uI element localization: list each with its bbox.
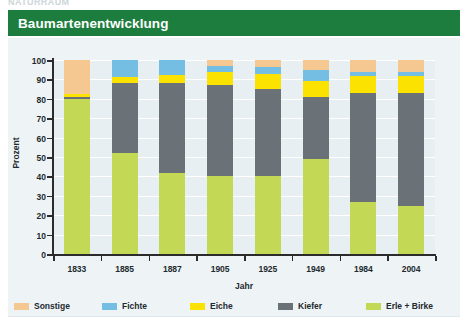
bar-segment-fichte[interactable]: [303, 70, 329, 82]
x-axis-tick: [340, 256, 342, 261]
stacked-bar[interactable]: [303, 60, 329, 254]
y-axis-tick-label: 10: [10, 231, 46, 241]
legend-swatch-icon: [102, 303, 117, 310]
legend-swatch-icon: [366, 303, 381, 310]
bar-segment-sonstige[interactable]: [255, 60, 281, 67]
x-axis-tick: [101, 256, 103, 261]
y-axis-tick: [47, 215, 52, 217]
x-axis-tick: [387, 256, 389, 261]
bar-segment-erle-birke[interactable]: [159, 173, 185, 254]
bar-segment-eiche[interactable]: [255, 74, 281, 90]
bar-segment-kiefer[interactable]: [255, 89, 281, 176]
bar-segment-fichte[interactable]: [112, 60, 138, 77]
page-title: Baumartenentwicklung: [8, 16, 169, 31]
x-axis-tick-label: 1887: [163, 264, 182, 274]
y-axis-tick: [47, 157, 52, 159]
y-axis-tick: [47, 118, 52, 120]
bar-segment-eiche[interactable]: [350, 76, 376, 93]
y-axis-tick: [47, 235, 52, 237]
y-axis-tick-label: 20: [10, 211, 46, 221]
bar-segment-kiefer[interactable]: [159, 83, 185, 172]
y-axis-tick: [47, 196, 52, 198]
legend-item[interactable]: Kiefer: [278, 301, 366, 311]
legend-label: Eiche: [210, 301, 233, 311]
x-axis-tick: [196, 256, 198, 261]
bar-segment-kiefer[interactable]: [350, 93, 376, 202]
x-axis-tick: [244, 256, 246, 261]
x-axis-tick-label: 1905: [211, 264, 230, 274]
bar-segment-eiche[interactable]: [207, 72, 233, 86]
bar-segment-fichte[interactable]: [255, 67, 281, 74]
chart-page: NATURRAUM Baumartenentwicklung 010203040…: [0, 0, 468, 322]
legend-swatch-icon: [190, 303, 205, 310]
cut-off-caption: NATURRAUM: [8, 0, 69, 6]
legend-swatch-icon: [14, 303, 29, 310]
y-axis-tick: [47, 79, 52, 81]
x-axis-tick: [53, 256, 55, 261]
bar-segment-kiefer[interactable]: [64, 97, 90, 99]
x-axis-tick-label: 2004: [402, 264, 421, 274]
y-axis-tick: [47, 254, 52, 256]
legend-label: Fichte: [122, 301, 147, 311]
header-band: Baumartenentwicklung: [8, 10, 460, 36]
legend-divider: [8, 316, 460, 317]
stacked-bar[interactable]: [159, 60, 185, 254]
legend-item[interactable]: Erle + Birke: [366, 301, 454, 311]
bar-segment-eiche[interactable]: [303, 81, 329, 97]
legend-label: Erle + Birke: [386, 301, 433, 311]
y-axis-tick-label: 30: [10, 192, 46, 202]
bar-segment-sonstige[interactable]: [207, 60, 233, 66]
bar-segment-erle-birke[interactable]: [207, 176, 233, 254]
legend-label: Sonstige: [34, 301, 70, 311]
bar-segment-kiefer[interactable]: [207, 85, 233, 176]
x-axis-tick-label: 1833: [67, 264, 86, 274]
bar-segment-eiche[interactable]: [64, 94, 90, 97]
y-axis-tick-label: 40: [10, 172, 46, 182]
bars-layer: [53, 60, 435, 254]
bar-segment-sonstige[interactable]: [64, 60, 90, 94]
x-axis-tick: [149, 256, 151, 261]
bar-segment-sonstige[interactable]: [303, 60, 329, 70]
x-axis-tick-label: 1949: [306, 264, 325, 274]
stacked-bar[interactable]: [64, 60, 90, 254]
chart-panel: 0102030405060708090100 18331885188719051…: [8, 38, 460, 316]
y-axis-tick-label: 80: [10, 95, 46, 105]
bar-segment-erle-birke[interactable]: [64, 99, 90, 254]
bar-segment-fichte[interactable]: [398, 72, 424, 76]
stacked-bar[interactable]: [350, 60, 376, 254]
legend-item[interactable]: Eiche: [190, 301, 278, 311]
x-axis-title: Jahr: [53, 281, 435, 291]
bar-segment-kiefer[interactable]: [303, 97, 329, 159]
bar-segment-fichte[interactable]: [159, 60, 185, 75]
bar-segment-eiche[interactable]: [398, 76, 424, 93]
bar-segment-sonstige[interactable]: [398, 60, 424, 72]
y-axis-title: Prozent: [11, 137, 21, 168]
x-axis-tick: [292, 256, 294, 261]
stacked-bar[interactable]: [207, 60, 233, 254]
y-axis-tick-label: 0: [10, 250, 46, 260]
bar-segment-kiefer[interactable]: [112, 83, 138, 153]
bar-segment-fichte[interactable]: [350, 72, 376, 76]
y-axis-tick-label: 100: [10, 56, 46, 66]
y-axis-line: [52, 58, 54, 256]
bar-segment-kiefer[interactable]: [398, 93, 424, 206]
legend-item[interactable]: Fichte: [102, 301, 190, 311]
bar-segment-erle-birke[interactable]: [303, 159, 329, 254]
bar-segment-fichte[interactable]: [207, 66, 233, 72]
stacked-bar[interactable]: [112, 60, 138, 254]
stacked-bar[interactable]: [255, 60, 281, 254]
bar-segment-erle-birke[interactable]: [398, 206, 424, 255]
bar-segment-erle-birke[interactable]: [255, 176, 281, 254]
bar-segment-erle-birke[interactable]: [112, 153, 138, 254]
stacked-bar[interactable]: [398, 60, 424, 254]
bar-segment-eiche[interactable]: [159, 75, 185, 84]
legend-swatch-icon: [278, 303, 293, 310]
bar-segment-eiche[interactable]: [112, 77, 138, 83]
legend-item[interactable]: Sonstige: [14, 301, 102, 311]
y-axis-tick: [47, 99, 52, 101]
bar-segment-sonstige[interactable]: [350, 60, 376, 72]
x-axis-tick-label: 1925: [258, 264, 277, 274]
y-axis-tick: [47, 176, 52, 178]
x-axis-tick-label: 1984: [354, 264, 373, 274]
bar-segment-erle-birke[interactable]: [350, 202, 376, 254]
